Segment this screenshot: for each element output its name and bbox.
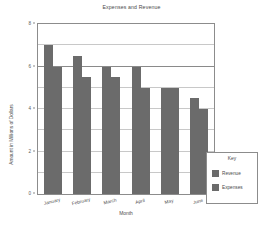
legend-label: Expenses <box>222 185 243 190</box>
bar-group <box>132 24 150 194</box>
bar-expenses-april <box>141 88 150 194</box>
legend-entry-revenue: Revenue <box>212 170 241 177</box>
x-tick-label: April <box>134 198 144 205</box>
y-axis: Amount in Millions of Dollars 02468 <box>0 23 35 195</box>
legend-label: Revenue <box>222 171 241 176</box>
plot-area <box>37 23 215 195</box>
x-axis: JanuaryFebruaryMarchAprilMayJune <box>37 196 215 210</box>
chart-figure: Expenses and Revenue Amount in Millions … <box>0 0 263 235</box>
x-tick-label: February <box>71 197 90 206</box>
bars-layer <box>38 24 214 194</box>
x-tick-label: June <box>193 198 204 205</box>
bar-revenue-may <box>161 88 170 194</box>
y-axis-label: Amount in Millions of Dollars <box>9 70 14 200</box>
y-tick-label: 2 <box>28 148 31 153</box>
bar-expenses-january <box>53 67 62 195</box>
legend-swatch-icon <box>212 170 219 177</box>
y-tick-mark <box>33 65 35 66</box>
y-tick-mark <box>33 150 35 151</box>
bar-group <box>102 24 120 194</box>
legend-title: Key <box>207 156 257 161</box>
bar-revenue-june <box>190 98 199 194</box>
bar-revenue-april <box>132 67 141 195</box>
x-tick-label: January <box>43 197 60 206</box>
x-axis-label: Month <box>37 211 215 216</box>
legend: Key Revenue Expenses <box>206 152 258 204</box>
bar-revenue-january <box>44 45 53 194</box>
bar-expenses-february <box>82 77 91 194</box>
x-tick-label: May <box>164 198 174 205</box>
bar-group <box>161 24 179 194</box>
bar-expenses-may <box>170 88 179 194</box>
bar-group <box>44 24 62 194</box>
bar-expenses-march <box>111 77 120 194</box>
y-tick-mark <box>33 193 35 194</box>
bar-revenue-february <box>73 56 82 194</box>
legend-entry-expenses: Expenses <box>212 184 243 191</box>
y-tick-mark <box>33 108 35 109</box>
y-tick-mark <box>33 23 35 24</box>
x-tick-label: March <box>103 197 117 205</box>
y-tick-label: 6 <box>28 63 31 68</box>
chart-title: Expenses and Revenue <box>0 4 263 10</box>
y-tick-label: 8 <box>28 21 31 26</box>
y-tick-label: 4 <box>28 106 31 111</box>
legend-swatch-icon <box>212 184 219 191</box>
bar-group <box>73 24 91 194</box>
y-tick-label: 0 <box>28 191 31 196</box>
bar-revenue-march <box>102 67 111 195</box>
